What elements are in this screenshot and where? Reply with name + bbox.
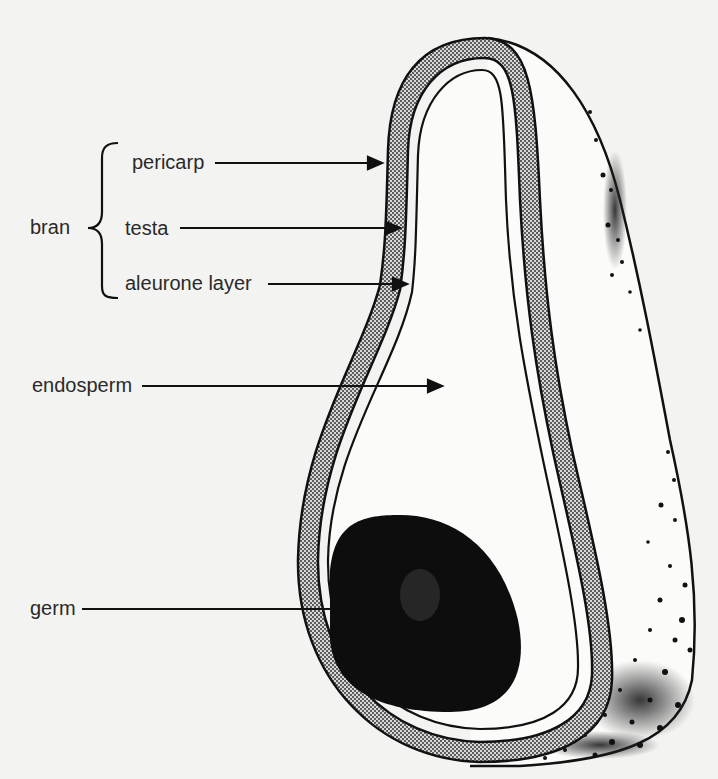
label-aleurone-layer: aleurone layer <box>125 273 252 293</box>
label-bran: bran <box>30 217 70 237</box>
label-pericarp: pericarp <box>132 152 204 172</box>
label-endosperm: endosperm <box>32 375 132 395</box>
label-testa: testa <box>125 218 168 238</box>
bran-brace <box>88 143 118 298</box>
label-germ: germ <box>30 598 76 618</box>
